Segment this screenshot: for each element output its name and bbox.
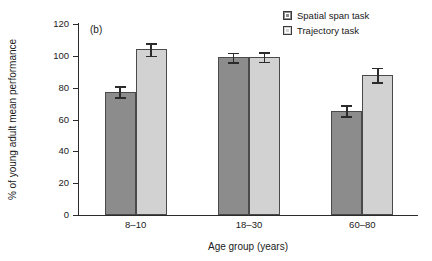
error-bar-line [346,105,348,116]
x-axis-line [78,215,418,216]
error-bar-cap-upper [228,53,239,55]
error-bar-cap-upper [341,105,352,107]
error-bar-cap-upper [146,43,157,45]
x-axis-tick-label: 18–30 [236,219,262,230]
bar-spatial-span-task-8-10 [105,92,136,215]
x-axis-tick-label: 8–10 [125,219,146,230]
legend-label-spatial-span-task: Spatial span task [297,10,369,21]
bar-trajectory-task-60-80 [362,75,393,215]
error-bar-line [119,86,121,97]
bar-spatial-span-task-60-80 [331,111,362,215]
error-bar-cap-upper [115,86,126,88]
bar-trajectory-task-8-10 [136,49,167,215]
bar-spatial-span-task-18-30 [218,57,249,215]
error-bar-cap-upper [259,52,270,54]
error-bar-cap-upper [372,68,383,70]
error-bar-line [377,68,379,82]
error-bar-cap-lower [115,97,126,99]
error-bar-cap-lower [341,116,352,118]
legend-swatch-icon-spatial-span-task [283,11,292,20]
error-bar-cap-lower [372,82,383,84]
error-bar-cap-lower [259,62,270,64]
plot-area [78,24,418,215]
bar-chart-figure: Spatial span task Trajectory task (b) 02… [0,0,432,261]
error-bar-cap-lower [146,56,157,58]
y-axis-title: % of young adult mean performance [6,24,20,215]
bar-trajectory-task-18-30 [249,57,280,215]
y-axis-tick-mark [73,215,78,216]
error-bar-cap-lower [228,62,239,64]
legend-entry-spatial-span-task: Spatial span task [283,9,369,21]
error-bar-line [150,43,152,56]
x-axis-title: Age group (years) [78,241,418,252]
x-axis-tick-label: 60–80 [349,219,375,230]
